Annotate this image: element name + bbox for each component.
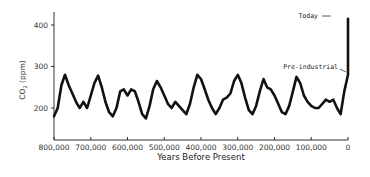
x-tick-label: 400,000 bbox=[185, 143, 216, 152]
x-axis-title: Years Before Present bbox=[156, 152, 245, 162]
annotation-preindustrial: Pre-industrial bbox=[283, 63, 338, 71]
annotation-today: Today bbox=[298, 12, 318, 20]
y-tick-label: 300 bbox=[34, 62, 49, 71]
y-tick-label: 400 bbox=[34, 21, 49, 30]
y-ticks: 200300400 bbox=[34, 21, 54, 113]
x-tick-label: 700,000 bbox=[75, 143, 106, 152]
x-tick-label: 600,000 bbox=[112, 143, 143, 152]
x-tick-label: 0 bbox=[346, 143, 351, 152]
x-tick-label: 200,000 bbox=[259, 143, 290, 152]
x-tick-label: 100,000 bbox=[296, 143, 327, 152]
annotation-preindustrial-leader bbox=[340, 69, 346, 72]
x-tick-label: 300,000 bbox=[222, 143, 253, 152]
chart-canvas: 200300400 800,000700,000600,000500,00040… bbox=[0, 0, 370, 177]
x-ticks: 800,000700,000600,000500,000400,000300,0… bbox=[38, 137, 350, 152]
x-tick-label: 500,000 bbox=[149, 143, 180, 152]
x-tick-label: 800,000 bbox=[38, 143, 69, 152]
y-axis-title: CO2 (ppm) bbox=[18, 60, 28, 99]
y-tick-label: 200 bbox=[34, 104, 49, 113]
